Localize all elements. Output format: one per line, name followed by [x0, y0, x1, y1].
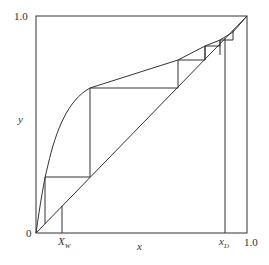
mccabe-thiele-diagram: 1.0 y 0 x 1.0 XW xD — [0, 0, 269, 265]
x-axis-label: x — [136, 240, 142, 252]
y-max-label: 1.0 — [14, 10, 28, 22]
diagonal-line — [36, 16, 247, 233]
xd-label: xD — [218, 235, 229, 250]
y-axis-label: y — [17, 113, 23, 125]
xw-label: XW — [57, 235, 72, 250]
origin-label: 0 — [26, 227, 32, 239]
x-max-label: 1.0 — [244, 236, 258, 248]
